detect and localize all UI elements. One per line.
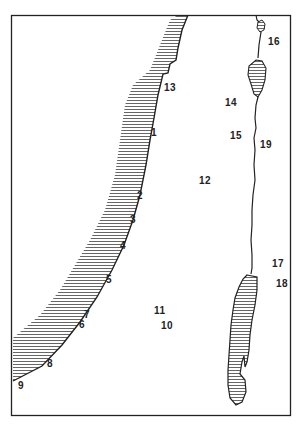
place-label-19: 19 <box>260 140 272 150</box>
lake-middle <box>248 60 266 97</box>
place-label-3: 3 <box>130 215 136 225</box>
place-label-11: 11 <box>154 306 166 316</box>
place-label-9: 9 <box>18 381 24 391</box>
place-label-8: 8 <box>47 359 53 369</box>
place-label-4: 4 <box>120 241 126 251</box>
place-label-18: 18 <box>276 279 288 289</box>
place-label-13: 13 <box>164 83 176 93</box>
place-label-17: 17 <box>272 259 284 269</box>
place-label-6: 6 <box>79 320 85 330</box>
place-label-2: 2 <box>137 191 143 201</box>
place-label-5: 5 <box>106 275 112 285</box>
place-label-7: 7 <box>84 310 90 320</box>
place-label-10: 10 <box>161 321 173 331</box>
place-label-16: 16 <box>268 37 280 47</box>
map <box>0 0 304 426</box>
place-label-1: 1 <box>151 128 157 138</box>
place-label-12: 12 <box>199 176 211 186</box>
place-label-15: 15 <box>230 131 242 141</box>
place-label-14: 14 <box>225 98 237 108</box>
lake-south-large <box>228 275 257 405</box>
small-lake-north <box>257 20 265 32</box>
